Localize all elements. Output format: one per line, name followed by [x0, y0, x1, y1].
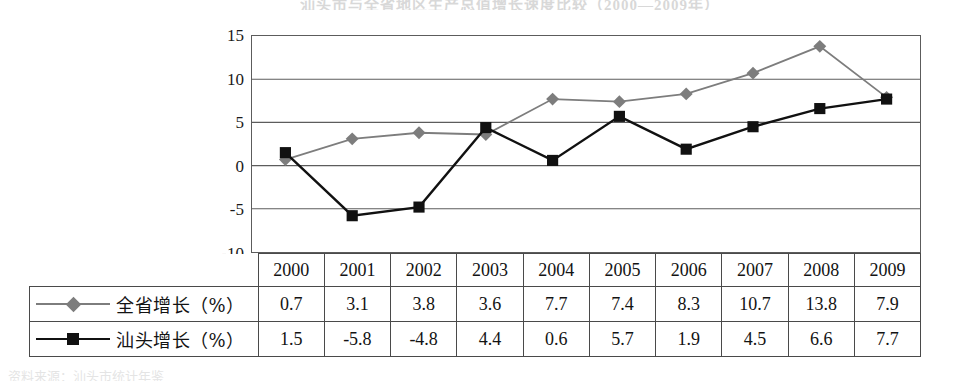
table-cell: 13.8: [788, 287, 854, 322]
y-axis-tick-label: 5: [192, 114, 244, 131]
table-cell: 4.4: [457, 322, 523, 357]
figure-title-fragment: 汕头市与全省地区生产总值增长速度比较（2000—2009年）: [300, 0, 940, 10]
x-axis-tick-label: 2009: [854, 254, 920, 287]
table-cell: 5.7: [589, 322, 655, 357]
data-point-marker: [814, 103, 825, 114]
series-layer: [279, 40, 893, 221]
series-line: [285, 99, 886, 216]
table-cell: 8.3: [656, 287, 722, 322]
table-cell: 7.4: [589, 287, 655, 322]
table-cell: 7.7: [854, 322, 920, 357]
table-cell: -5.8: [324, 322, 390, 357]
data-point-marker: [480, 122, 491, 133]
table-cell: 7.7: [523, 287, 589, 322]
data-point-marker: [280, 147, 291, 158]
data-point-marker: [614, 111, 625, 122]
square-marker-icon: [36, 332, 110, 346]
data-point-marker: [747, 121, 758, 132]
table-row: 汕头增长（%）1.5-5.8-4.84.40.65.71.94.56.67.7: [30, 322, 921, 357]
data-point-marker: [681, 144, 692, 155]
y-axis-tick-label: -5: [192, 201, 244, 218]
y-axis-tick-label: 0: [192, 158, 244, 175]
figure-caption-fragment: 资料来源：汕头市统计年鉴: [8, 370, 428, 381]
data-table: 2000200120022003200420052006200720082009…: [29, 253, 921, 357]
data-point-marker: [346, 132, 359, 145]
legend-item-shantou: 汕头增长（%）: [30, 322, 259, 357]
diamond-marker-icon: [36, 297, 110, 311]
x-axis-tick-label: 2001: [324, 254, 390, 287]
chart-plot-area: [251, 35, 921, 253]
table-cell: 4.5: [722, 322, 788, 357]
data-point-marker: [680, 87, 693, 100]
table-row: 全省增长（%）0.73.13.83.67.77.48.310.713.87.9: [30, 287, 921, 322]
table-cell: 1.5: [258, 322, 324, 357]
x-axis-tick-label: 2006: [656, 254, 722, 287]
table-cell: 3.1: [324, 287, 390, 322]
series-shantou: [280, 94, 892, 222]
data-point-marker: [547, 155, 558, 166]
data-point-marker: [347, 210, 358, 221]
data-point-marker: [413, 126, 426, 139]
y-axis-tick-label: 10: [192, 71, 244, 88]
chart-svg: [252, 36, 920, 252]
table-cell: 0.7: [258, 287, 324, 322]
x-axis-tick-label: 2000: [258, 254, 324, 287]
data-point-marker: [747, 67, 760, 80]
x-axis-tick-label: 2002: [391, 254, 457, 287]
table-header-corner: [30, 254, 259, 287]
table-header-row: 2000200120022003200420052006200720082009: [30, 254, 921, 287]
x-axis-tick-label: 2007: [722, 254, 788, 287]
x-axis-tick-label: 2003: [457, 254, 523, 287]
data-point-marker: [546, 93, 559, 106]
table-cell: 7.9: [854, 287, 920, 322]
table-cell: 3.6: [457, 287, 523, 322]
table-cell: -4.8: [391, 322, 457, 357]
x-axis-tick-label: 2005: [589, 254, 655, 287]
table-cell: 6.6: [788, 322, 854, 357]
data-point-marker: [881, 94, 892, 105]
series-line: [285, 46, 886, 159]
legend-label: 汕头增长（%）: [116, 326, 245, 352]
y-axis-tick-label: 15: [192, 27, 244, 44]
legend-item-province: 全省增长（%）: [30, 287, 259, 322]
data-point-marker: [413, 202, 424, 213]
table-cell: 3.8: [391, 287, 457, 322]
table-cell: 1.9: [656, 322, 722, 357]
x-axis-tick-label: 2004: [523, 254, 589, 287]
series-province: [279, 40, 893, 166]
table-cell: 10.7: [722, 287, 788, 322]
table-cell: 0.6: [523, 322, 589, 357]
data-point-marker: [613, 95, 626, 108]
legend-label: 全省增长（%）: [116, 291, 245, 317]
x-axis-tick-label: 2008: [788, 254, 854, 287]
